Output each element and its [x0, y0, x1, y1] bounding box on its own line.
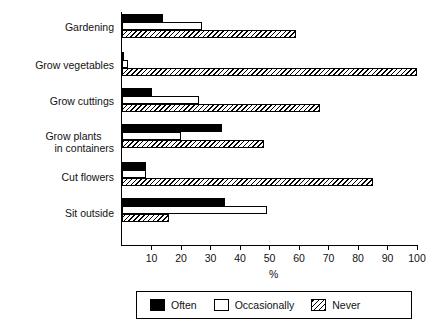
category-label-line1: Sit outside — [65, 207, 114, 219]
plot-area: 102030405060708090100 % — [122, 12, 417, 245]
x-axis-tick — [387, 245, 388, 250]
category-label: Grow vegetables — [35, 60, 114, 72]
category-label-line2: in containers — [45, 143, 114, 155]
x-axis-tick-label: 60 — [293, 252, 305, 264]
legend-item: Never — [311, 299, 360, 311]
x-axis-tick-label: 80 — [352, 252, 364, 264]
x-axis-tick-label: 90 — [382, 252, 394, 264]
bar-never — [122, 104, 320, 112]
legend-item: Often — [150, 299, 197, 311]
bar-often — [122, 52, 124, 60]
bar-chart: GardeningGrow vegetablesGrow cuttingsGro… — [0, 0, 444, 336]
bar-occasionally — [122, 60, 128, 68]
x-axis-tick-label: 20 — [175, 252, 187, 264]
bar-occasionally — [122, 132, 181, 140]
bar-never — [122, 68, 417, 76]
hatched-swatch — [311, 299, 326, 311]
category-label-line1: Grow plants — [45, 130, 101, 142]
category-label: Cut flowers — [61, 172, 114, 184]
x-axis-tick — [181, 245, 182, 250]
bar-never — [122, 178, 373, 186]
legend-item-label: Occasionally — [235, 299, 295, 311]
x-axis-tick-label: 100 — [408, 252, 426, 264]
category-label: Grow plantsin containers — [45, 131, 114, 154]
x-axis-tick — [210, 245, 211, 250]
legend-items: OftenOccasionallyNever — [137, 292, 411, 318]
bar-occasionally — [122, 22, 202, 30]
x-axis-tick — [299, 245, 300, 250]
bar-often — [122, 198, 225, 206]
bar-never — [122, 140, 264, 148]
category-label-line1: Cut flowers — [61, 171, 114, 183]
category-label-line1: Grow vegetables — [35, 59, 114, 71]
x-axis-tick — [358, 245, 359, 250]
x-axis-tick-label: 10 — [146, 252, 158, 264]
legend-item-label: Never — [332, 299, 360, 311]
legend-item-label: Often — [171, 299, 197, 311]
x-axis-title: % — [269, 268, 278, 280]
x-axis-tick-label: 30 — [205, 252, 217, 264]
solid-black-swatch — [150, 299, 165, 311]
x-axis-tick — [417, 245, 418, 250]
category-label: Gardening — [65, 22, 114, 34]
category-axis-labels: GardeningGrow vegetablesGrow cuttingsGro… — [0, 0, 118, 245]
x-axis-tick — [269, 245, 270, 250]
x-axis-tick — [151, 245, 152, 250]
category-label: Sit outside — [65, 208, 114, 220]
empty-white-swatch — [214, 299, 229, 311]
bar-occasionally — [122, 96, 199, 104]
category-label-line1: Grow cuttings — [50, 95, 114, 107]
bar-often — [122, 88, 152, 96]
bar-never — [122, 214, 169, 222]
x-axis-tick-label: 70 — [323, 252, 335, 264]
bar-often — [122, 162, 146, 170]
x-axis-tick — [240, 245, 241, 250]
x-axis-tick-label: 40 — [234, 252, 246, 264]
bar-never — [122, 30, 296, 38]
category-label-line1: Gardening — [65, 21, 114, 33]
bar-often — [122, 14, 163, 22]
x-axis-tick-label: 50 — [264, 252, 276, 264]
bar-occasionally — [122, 206, 267, 214]
x-axis-tick — [328, 245, 329, 250]
chart-legend: OftenOccasionallyNever — [136, 291, 412, 319]
category-label: Grow cuttings — [50, 96, 114, 108]
legend-item: Occasionally — [214, 299, 295, 311]
bar-occasionally — [122, 170, 146, 178]
bar-often — [122, 124, 222, 132]
